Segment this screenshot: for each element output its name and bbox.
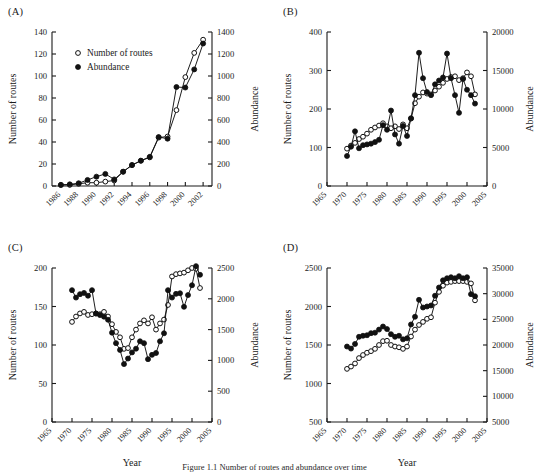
- panel-c: (C) 050100150200050010001500200025001965…: [0, 236, 274, 472]
- svg-text:20000: 20000: [492, 27, 513, 37]
- svg-text:0: 0: [217, 417, 221, 427]
- svg-text:2005: 2005: [470, 190, 488, 208]
- svg-text:0: 0: [492, 181, 496, 191]
- svg-text:1998: 1998: [151, 190, 169, 208]
- svg-text:1995: 1995: [430, 190, 448, 208]
- svg-text:1000: 1000: [217, 71, 234, 81]
- svg-text:100: 100: [34, 71, 47, 81]
- svg-text:1500: 1500: [305, 340, 322, 350]
- svg-text:400: 400: [217, 137, 230, 147]
- svg-text:2000: 2000: [169, 190, 187, 208]
- svg-text:1000: 1000: [305, 379, 322, 389]
- svg-text:1996: 1996: [133, 190, 151, 208]
- svg-text:35000: 35000: [492, 263, 513, 273]
- svg-text:Number of routes: Number of routes: [7, 310, 18, 381]
- svg-text:20: 20: [38, 159, 47, 169]
- svg-text:1400: 1400: [217, 27, 234, 37]
- svg-text:1970: 1970: [55, 426, 73, 444]
- svg-text:0: 0: [43, 181, 47, 191]
- svg-text:2500: 2500: [217, 263, 234, 273]
- svg-text:1980: 1980: [95, 426, 113, 444]
- svg-text:1965: 1965: [310, 190, 328, 208]
- svg-text:2500: 2500: [305, 263, 322, 273]
- svg-text:2005: 2005: [470, 426, 488, 444]
- svg-text:100: 100: [34, 340, 47, 350]
- svg-text:1985: 1985: [390, 190, 408, 208]
- svg-text:25000: 25000: [492, 314, 513, 324]
- svg-text:500: 500: [217, 386, 230, 396]
- svg-text:2000: 2000: [175, 426, 193, 444]
- svg-text:1992: 1992: [97, 190, 115, 208]
- svg-text:40: 40: [38, 137, 47, 147]
- svg-text:1975: 1975: [350, 190, 368, 208]
- svg-text:800: 800: [217, 93, 230, 103]
- svg-text:2000: 2000: [305, 302, 322, 312]
- svg-text:1975: 1975: [75, 426, 93, 444]
- svg-text:50: 50: [38, 379, 47, 389]
- svg-text:1970: 1970: [330, 426, 348, 444]
- svg-text:1990: 1990: [135, 426, 153, 444]
- svg-text:60: 60: [38, 115, 47, 125]
- svg-text:1975: 1975: [350, 426, 368, 444]
- svg-text:5000: 5000: [492, 143, 509, 153]
- svg-text:1000: 1000: [217, 355, 234, 365]
- svg-text:80: 80: [38, 93, 47, 103]
- panel-d-plot: 5001000150020002500500010000150002000025…: [275, 236, 549, 472]
- svg-text:2002: 2002: [186, 190, 204, 208]
- svg-text:1985: 1985: [390, 426, 408, 444]
- svg-text:Abundance: Abundance: [524, 322, 535, 368]
- svg-text:1995: 1995: [155, 426, 173, 444]
- panel-c-plot: 0501001502000500100015002000250019651970…: [0, 236, 274, 472]
- svg-text:2000: 2000: [217, 294, 234, 304]
- svg-text:5000: 5000: [492, 417, 509, 427]
- svg-text:Number of routes: Number of routes: [87, 48, 153, 58]
- svg-text:150: 150: [34, 302, 47, 312]
- svg-text:30000: 30000: [492, 289, 513, 299]
- svg-text:100: 100: [309, 143, 322, 153]
- svg-text:1965: 1965: [310, 426, 328, 444]
- svg-text:300: 300: [309, 66, 322, 76]
- svg-text:10000: 10000: [492, 104, 513, 114]
- svg-text:1988: 1988: [62, 190, 80, 208]
- svg-text:120: 120: [34, 49, 47, 59]
- svg-text:15000: 15000: [492, 66, 513, 76]
- svg-text:Number of routes: Number of routes: [7, 74, 18, 145]
- svg-text:400: 400: [309, 27, 322, 37]
- svg-text:1980: 1980: [370, 426, 388, 444]
- svg-text:140: 140: [34, 27, 47, 37]
- svg-text:600: 600: [217, 115, 230, 125]
- svg-text:2000: 2000: [450, 426, 468, 444]
- svg-text:Abundance: Abundance: [249, 322, 260, 368]
- panel-a-plot: 0204060801001201400200400600800100012001…: [0, 0, 274, 236]
- svg-text:200: 200: [309, 104, 322, 114]
- svg-text:1985: 1985: [115, 426, 133, 444]
- svg-text:1980: 1980: [370, 190, 388, 208]
- svg-text:200: 200: [34, 263, 47, 273]
- svg-text:2005: 2005: [195, 426, 213, 444]
- svg-text:Number of routes: Number of routes: [282, 310, 293, 381]
- figure-caption: Figure 1.1 Number of routes and abundanc…: [0, 462, 549, 473]
- svg-text:10000: 10000: [492, 391, 513, 401]
- svg-text:500: 500: [309, 417, 322, 427]
- svg-text:Abundance: Abundance: [249, 86, 260, 132]
- svg-text:15000: 15000: [492, 366, 513, 376]
- svg-text:20000: 20000: [492, 340, 513, 350]
- panel-a: (A) 020406080100120140020040060080010001…: [0, 0, 274, 236]
- svg-text:1994: 1994: [115, 189, 134, 208]
- svg-text:1500: 1500: [217, 325, 234, 335]
- svg-text:1200: 1200: [217, 49, 234, 59]
- panel-b: (B) 010020030040005000100001500020000196…: [275, 0, 549, 236]
- panel-b-plot: 0100200300400050001000015000200001965197…: [275, 0, 549, 236]
- svg-text:Abundance: Abundance: [87, 62, 129, 72]
- svg-text:Number of routes: Number of routes: [282, 74, 293, 145]
- svg-text:1990: 1990: [410, 426, 428, 444]
- svg-text:1990: 1990: [80, 190, 98, 208]
- svg-text:1986: 1986: [44, 190, 62, 208]
- svg-text:0: 0: [217, 181, 221, 191]
- svg-text:1965: 1965: [35, 426, 53, 444]
- svg-text:1995: 1995: [430, 426, 448, 444]
- svg-text:200: 200: [217, 159, 230, 169]
- svg-text:1990: 1990: [410, 190, 428, 208]
- svg-text:2000: 2000: [450, 190, 468, 208]
- panel-d: (D) 500100015002000250050001000015000200…: [275, 236, 549, 472]
